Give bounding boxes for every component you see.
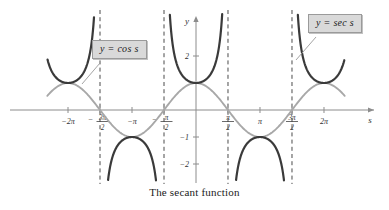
svg-text:π: π [165,114,169,122]
y-axis-label: y [184,16,189,26]
y-tick-label: −1 [180,133,189,142]
secant-branch [48,17,94,83]
x-tick-label: −2π [61,117,75,126]
x-tick-label: 2π [320,117,329,126]
svg-text:−: − [88,115,93,124]
secant-callout-label: y = sec s [308,14,362,33]
x-tick-label: π [258,117,263,126]
y-tick-label: 2 [185,52,189,61]
svg-text:2: 2 [165,124,169,132]
secant-branch [236,137,284,180]
y-tick-label: −2 [180,160,189,169]
x-axis-arrowhead [368,107,374,112]
secant-function-figure: sy−2π−3π2−π−π2π2π3π22π2−1−2 y = cos s y … [0,0,389,210]
x-axis-label: s [368,115,372,125]
figure-caption: The secant function [0,186,389,198]
secant-callout-leader [296,37,316,60]
svg-text:2: 2 [101,124,105,132]
svg-text:2: 2 [290,124,294,132]
y-axis-arrowhead [193,16,198,22]
cosine-callout-label: y = cos s [92,40,147,59]
svg-text:2: 2 [226,124,230,132]
cosine-callout-leader [82,63,100,84]
svg-text:π: π [226,114,230,122]
secant-branch [108,137,156,180]
x-tick-label: −π [127,117,137,126]
